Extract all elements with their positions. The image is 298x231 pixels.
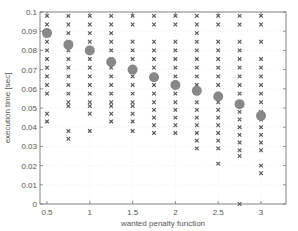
x-marker <box>88 104 92 108</box>
x-marker <box>238 75 242 79</box>
x-marker <box>174 100 178 104</box>
x-marker <box>67 31 71 35</box>
x-marker <box>195 40 199 44</box>
x-marker <box>67 137 71 141</box>
x-marker <box>88 92 92 96</box>
x-marker <box>45 23 49 27</box>
x-marker <box>259 148 263 152</box>
x-marker <box>195 123 199 127</box>
x-marker <box>131 100 135 104</box>
x-marker <box>67 57 71 61</box>
x-marker <box>259 40 263 44</box>
x-marker <box>67 100 71 104</box>
x-marker <box>152 49 156 53</box>
x-marker <box>238 148 242 152</box>
x-marker <box>67 66 71 70</box>
y-axis-ticks: 00.010.020.030.040.050.060.070.080.090.1 <box>21 8 286 209</box>
x-marker <box>238 57 242 61</box>
x-marker <box>238 83 242 87</box>
x-marker <box>152 57 156 61</box>
x-marker <box>238 133 242 137</box>
x-marker <box>238 14 242 18</box>
x-tick-label: 1 <box>88 208 93 217</box>
y-tick-label: 0.09 <box>21 27 37 36</box>
sample-markers <box>45 14 263 206</box>
x-marker <box>152 66 156 70</box>
x-marker <box>259 100 263 104</box>
x-marker <box>195 23 199 27</box>
x-marker <box>195 147 199 151</box>
x-marker <box>238 118 242 122</box>
mean-circle-marker <box>256 111 266 121</box>
x-marker <box>88 83 92 87</box>
x-marker <box>152 131 156 135</box>
mean-circle-marker <box>149 72 159 82</box>
x-marker <box>88 23 92 27</box>
x-tick-label: 3 <box>259 208 264 217</box>
mean-circle-marker <box>192 86 202 96</box>
x-marker <box>174 92 178 96</box>
y-tick-label: 0 <box>33 200 38 209</box>
x-marker <box>152 116 156 120</box>
x-marker <box>238 40 242 44</box>
mean-circle-marker <box>85 45 95 55</box>
x-marker <box>216 116 220 120</box>
x-marker <box>131 40 135 44</box>
x-marker <box>131 23 135 27</box>
x-marker <box>195 14 199 18</box>
x-marker <box>67 14 71 18</box>
y-axis-label: execution time [sec] <box>3 73 12 144</box>
x-marker <box>216 83 220 87</box>
x-marker <box>109 40 113 44</box>
x-marker <box>109 31 113 35</box>
x-axis-label: wanted penalty function <box>120 219 205 228</box>
x-marker <box>109 23 113 27</box>
x-marker <box>195 108 199 112</box>
x-marker <box>216 40 220 44</box>
x-marker <box>195 131 199 135</box>
x-marker <box>216 131 220 135</box>
x-tick-label: 2.5 <box>213 208 225 217</box>
x-marker <box>45 40 49 44</box>
x-marker <box>238 66 242 70</box>
x-marker <box>238 110 242 114</box>
x-marker <box>131 83 135 87</box>
x-marker <box>195 57 199 61</box>
y-tick-label: 0.05 <box>21 104 37 113</box>
x-marker <box>152 123 156 127</box>
x-marker <box>152 23 156 27</box>
x-marker <box>67 129 71 133</box>
y-tick-label: 0.04 <box>21 123 37 132</box>
x-marker <box>174 40 178 44</box>
y-tick-label: 0.07 <box>21 66 37 75</box>
x-marker <box>109 92 113 96</box>
x-marker <box>109 104 113 108</box>
mean-circle-marker <box>170 80 180 90</box>
x-marker <box>174 116 178 120</box>
x-marker <box>259 92 263 96</box>
x-marker <box>88 100 92 104</box>
x-marker <box>152 100 156 104</box>
x-tick-label: 2 <box>173 208 178 217</box>
mean-circle-marker <box>128 65 138 75</box>
x-marker <box>67 92 71 96</box>
x-marker <box>109 14 113 18</box>
x-marker <box>152 40 156 44</box>
x-marker <box>109 112 113 116</box>
x-tick-label: 0.5 <box>41 208 53 217</box>
mean-circle-marker <box>106 57 116 67</box>
x-marker <box>45 92 49 96</box>
mean-circle-marker <box>235 99 245 109</box>
x-marker <box>109 100 113 104</box>
x-marker <box>195 116 199 120</box>
mean-circle-marker <box>42 28 52 38</box>
x-marker <box>152 83 156 87</box>
y-tick-label: 0.01 <box>21 181 37 190</box>
x-marker <box>152 14 156 18</box>
y-tick-label: 0.02 <box>21 162 37 171</box>
mean-circle-marker <box>213 91 223 101</box>
x-marker <box>195 66 199 70</box>
x-marker <box>259 23 263 27</box>
y-tick-label: 0.1 <box>26 8 38 17</box>
grid-lines <box>40 12 286 204</box>
